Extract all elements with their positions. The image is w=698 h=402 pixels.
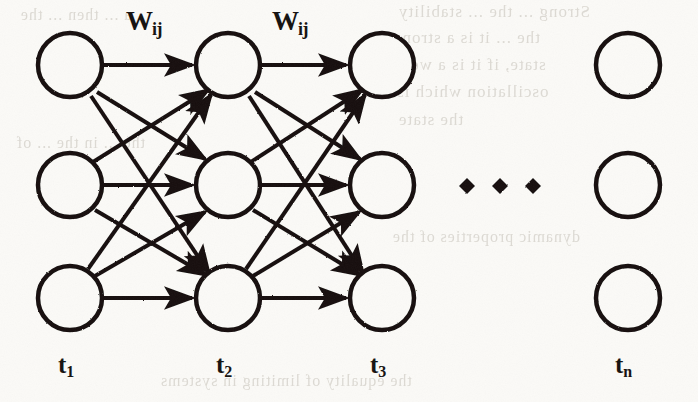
- ellipsis-group: [459, 178, 541, 194]
- node-tn-r3[interactable]: [596, 266, 660, 330]
- figure-canvas: Strong ... the ... stability the ... it …: [0, 0, 698, 402]
- weight-label-symbol: W: [272, 6, 299, 36]
- node-t2-r1[interactable]: [196, 33, 260, 97]
- weight-label-subscript: ij: [152, 19, 162, 39]
- edge-group-t2-t3: [246, 65, 365, 298]
- time-label-subscript: 1: [66, 363, 74, 380]
- weight-label-symbol: W: [126, 6, 153, 36]
- time-label-t3: t3: [370, 352, 386, 377]
- node-t1-r1[interactable]: [38, 33, 102, 97]
- ellipsis-diamond-icon: [492, 178, 508, 194]
- node-t2-r3[interactable]: [196, 266, 260, 330]
- node-t1-r3[interactable]: [38, 266, 102, 330]
- node-t3-r2[interactable]: [350, 153, 414, 217]
- node-tn-r1[interactable]: [596, 33, 660, 97]
- network-diagram-svg: [0, 0, 698, 402]
- diagram-ink-group: [38, 33, 660, 330]
- time-label-t1: t1: [58, 352, 74, 377]
- time-label-t2: t2: [216, 352, 232, 377]
- weight-label-t2-t3: Wij: [272, 8, 309, 35]
- weight-label-subscript: ij: [298, 19, 308, 39]
- time-label-subscript: 3: [378, 363, 386, 380]
- node-t2-r2[interactable]: [196, 153, 260, 217]
- ellipsis-diamond-icon: [459, 178, 475, 194]
- node-group: [38, 33, 660, 330]
- time-label-subscript: n: [623, 363, 632, 380]
- edge-group-t1-t2: [88, 65, 211, 298]
- weight-label-t1-t2: Wij: [126, 8, 163, 35]
- time-label-subscript: 2: [224, 363, 232, 380]
- node-t3-r3[interactable]: [350, 266, 414, 330]
- ellipsis-diamond-icon: [525, 178, 541, 194]
- node-t1-r2[interactable]: [38, 153, 102, 217]
- node-t3-r1[interactable]: [350, 33, 414, 97]
- node-tn-r2[interactable]: [596, 153, 660, 217]
- time-label-tn: tn: [615, 352, 632, 377]
